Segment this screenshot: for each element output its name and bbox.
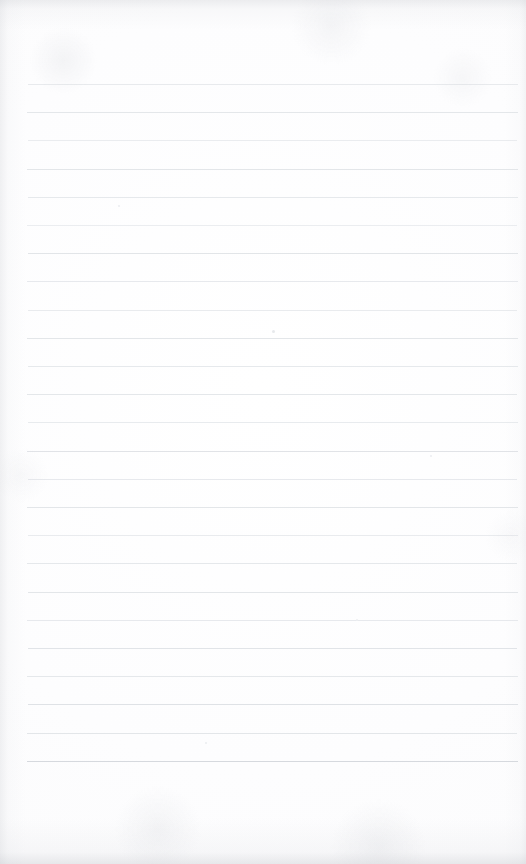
ruled-line — [27, 451, 518, 452]
ruled-line — [27, 338, 518, 339]
lined-paper-page — [0, 0, 526, 864]
ruled-line — [28, 535, 518, 536]
ruled-line — [28, 140, 517, 141]
ruled-line — [27, 225, 517, 226]
ruled-line — [28, 479, 517, 480]
ruled-line — [27, 394, 517, 395]
ruled-line — [28, 422, 518, 423]
ruled-line — [28, 592, 518, 593]
ruled-line — [28, 648, 517, 649]
ruled-lines-group — [0, 0, 526, 864]
ruled-line — [27, 563, 517, 564]
ruled-line — [28, 366, 518, 367]
ruled-line — [28, 84, 518, 85]
ruled-line — [27, 676, 518, 677]
ruled-line — [27, 112, 518, 113]
ruled-line — [27, 507, 518, 508]
ruled-line — [27, 733, 517, 734]
ruled-line — [28, 704, 518, 705]
ruled-line — [27, 761, 518, 762]
ruled-line — [27, 169, 518, 170]
ruled-line — [28, 253, 518, 254]
ruled-line — [28, 197, 518, 198]
ruled-line — [27, 281, 518, 282]
ruled-line — [27, 620, 518, 621]
ruled-line — [28, 310, 517, 311]
